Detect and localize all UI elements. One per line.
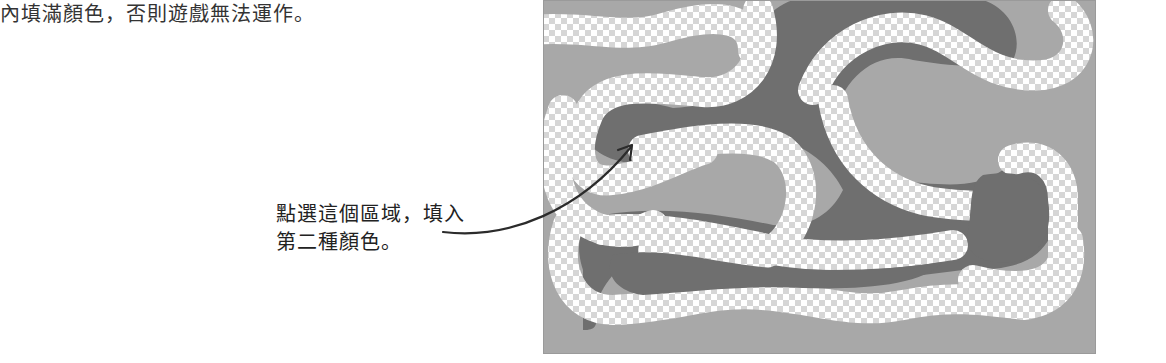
instruction-text: 內填滿顏色，否則遊戲無法運作。 (0, 0, 315, 28)
callout-line-2: 第二種顏色。 (276, 228, 465, 256)
callout-label: 點選這個區域，填入 第二種顏色。 (276, 200, 465, 256)
callout-line-1: 點選這個區域，填入 (276, 200, 465, 228)
game-map-figure (543, 0, 1096, 354)
